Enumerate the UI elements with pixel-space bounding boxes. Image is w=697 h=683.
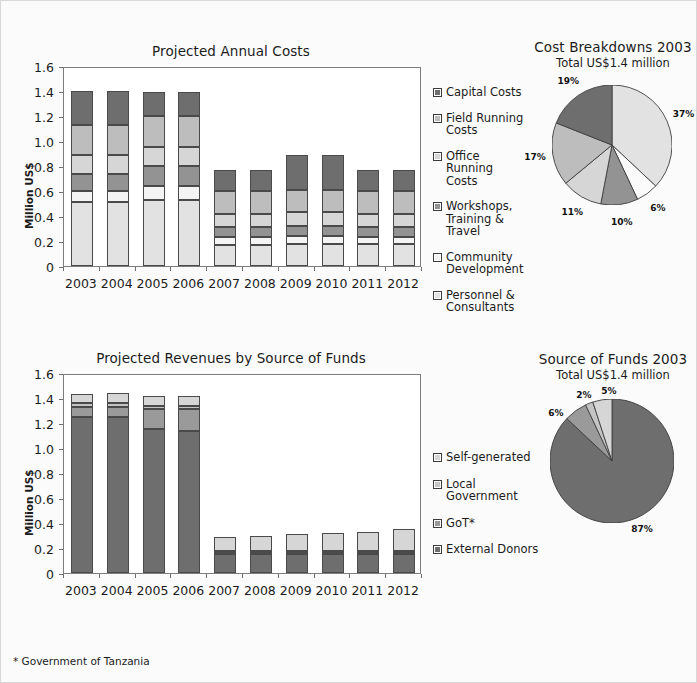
bar-2010[interactable] [322, 66, 344, 266]
costs-legend-label: Personnel & Consultants [446, 289, 515, 314]
bar-segment [393, 554, 415, 573]
bar-segment [286, 554, 308, 573]
bar-2004[interactable] [107, 373, 129, 573]
bar-2010[interactable] [322, 373, 344, 573]
cost-pie-title: Cost Breakdowns 2003 [528, 39, 697, 55]
bar-segment [250, 170, 272, 191]
pie-percentage-label: 6% [650, 203, 665, 213]
revenue-chart-legend: Self-generatedLocal GovernmentGoT*Extern… [433, 451, 543, 570]
bar-segment [107, 403, 129, 407]
legend-swatch-icon [433, 453, 442, 462]
costs-legend-label: Community Development [446, 251, 523, 276]
bar-2003[interactable] [71, 66, 93, 266]
y-tick-label: 1.2 [1, 110, 54, 125]
bar-segment [107, 202, 129, 266]
bar-segment [143, 409, 165, 429]
y-tick-label: 1.4 [1, 392, 54, 407]
bar-2008[interactable] [250, 66, 272, 266]
revenue-legend-item[interactable]: External Donors [433, 543, 543, 556]
bar-segment [286, 212, 308, 226]
bar-segment [357, 554, 379, 573]
bar-segment [143, 429, 165, 573]
bar-segment [250, 214, 272, 228]
bar-segment [107, 125, 129, 155]
legend-swatch-icon [433, 202, 442, 211]
bar-segment [178, 147, 200, 166]
bar-segment [107, 417, 129, 573]
bar-segment [250, 227, 272, 237]
bar-2007[interactable] [214, 373, 236, 573]
costs-legend-item[interactable]: Field Running Costs [433, 112, 528, 137]
x-tick-mark [385, 267, 386, 271]
projected-revenues-panel: Projected Revenues by Source of Funds Mi… [1, 346, 441, 626]
bar-2009[interactable] [286, 373, 308, 573]
bar-2005[interactable] [143, 373, 165, 573]
bar-segment [178, 186, 200, 200]
pie-percentage-label: 10% [611, 217, 633, 227]
revenue-legend-item[interactable]: Local Government [433, 478, 543, 503]
revenue-pie-subtitle: Total US$1.4 million [528, 368, 697, 382]
bar-segment [71, 191, 93, 202]
bar-segment [250, 552, 272, 555]
bar-segment [71, 202, 93, 266]
costs-legend-item[interactable]: Personnel & Consultants [433, 289, 528, 314]
bar-segment [322, 226, 344, 236]
bar-2011[interactable] [357, 373, 379, 573]
bar-2008[interactable] [250, 373, 272, 573]
bar-segment [357, 227, 379, 237]
bar-segment [357, 170, 379, 191]
bar-segment [286, 552, 308, 555]
bar-segment [214, 554, 236, 573]
bar-2007[interactable] [214, 66, 236, 266]
x-tick-mark [135, 574, 136, 578]
bar-segment [322, 190, 344, 213]
costs-legend-label: Office Running Costs [446, 150, 528, 188]
revenue-pie-title: Source of Funds 2003 [528, 351, 697, 367]
y-tick-label: 1.0 [1, 135, 54, 150]
x-tick-mark [278, 574, 279, 578]
bar-segment [250, 191, 272, 214]
y-tick-label: 1.6 [1, 60, 54, 75]
revenue-legend-item[interactable]: Self-generated [433, 451, 543, 464]
bar-segment [71, 91, 93, 125]
bar-segment [393, 227, 415, 237]
bar-2012[interactable] [393, 66, 415, 266]
bar-segment [178, 396, 200, 406]
bar-segment [143, 396, 165, 406]
costs-chart-legend: Capital CostsField Running CostsOffice R… [433, 86, 528, 327]
pie-percentage-label: 2% [576, 390, 591, 400]
bar-segment [178, 406, 200, 410]
bar-2009[interactable] [286, 66, 308, 266]
bar-2011[interactable] [357, 66, 379, 266]
bar-segment [71, 155, 93, 174]
bar-segment [71, 403, 93, 407]
bar-2006[interactable] [178, 373, 200, 573]
bar-2005[interactable] [143, 66, 165, 266]
bar-2004[interactable] [107, 66, 129, 266]
bar-2003[interactable] [71, 373, 93, 573]
bar-segment [143, 147, 165, 166]
revenue-legend-label: External Donors [446, 543, 538, 556]
bar-segment [250, 536, 272, 551]
pie-percentage-label: 6% [548, 408, 563, 418]
x-tick-mark [99, 267, 100, 271]
bar-segment [214, 537, 236, 551]
pie-percentage-label: 11% [562, 207, 584, 217]
source-of-funds-pie: 87%6%2%5% [550, 399, 674, 523]
x-tick-mark [278, 267, 279, 271]
y-tick-label: 0.8 [1, 467, 54, 482]
bar-segment [250, 554, 272, 573]
bar-segment [393, 244, 415, 267]
bar-segment [393, 214, 415, 228]
x-tick-mark [206, 267, 207, 271]
bar-2012[interactable] [393, 373, 415, 573]
bar-2006[interactable] [178, 66, 200, 266]
legend-swatch-icon [433, 88, 442, 97]
bar-segment [214, 245, 236, 266]
costs-legend-item[interactable]: Office Running Costs [433, 150, 528, 188]
costs-legend-item[interactable]: Community Development [433, 251, 528, 276]
cost-breakdowns-pie-panel: Cost Breakdowns 2003 Total US$1.4 millio… [528, 39, 697, 234]
revenue-legend-item[interactable]: GoT* [433, 517, 543, 530]
costs-legend-item[interactable]: Workshops, Training & Travel [433, 200, 528, 238]
costs-legend-item[interactable]: Capital Costs [433, 86, 528, 99]
